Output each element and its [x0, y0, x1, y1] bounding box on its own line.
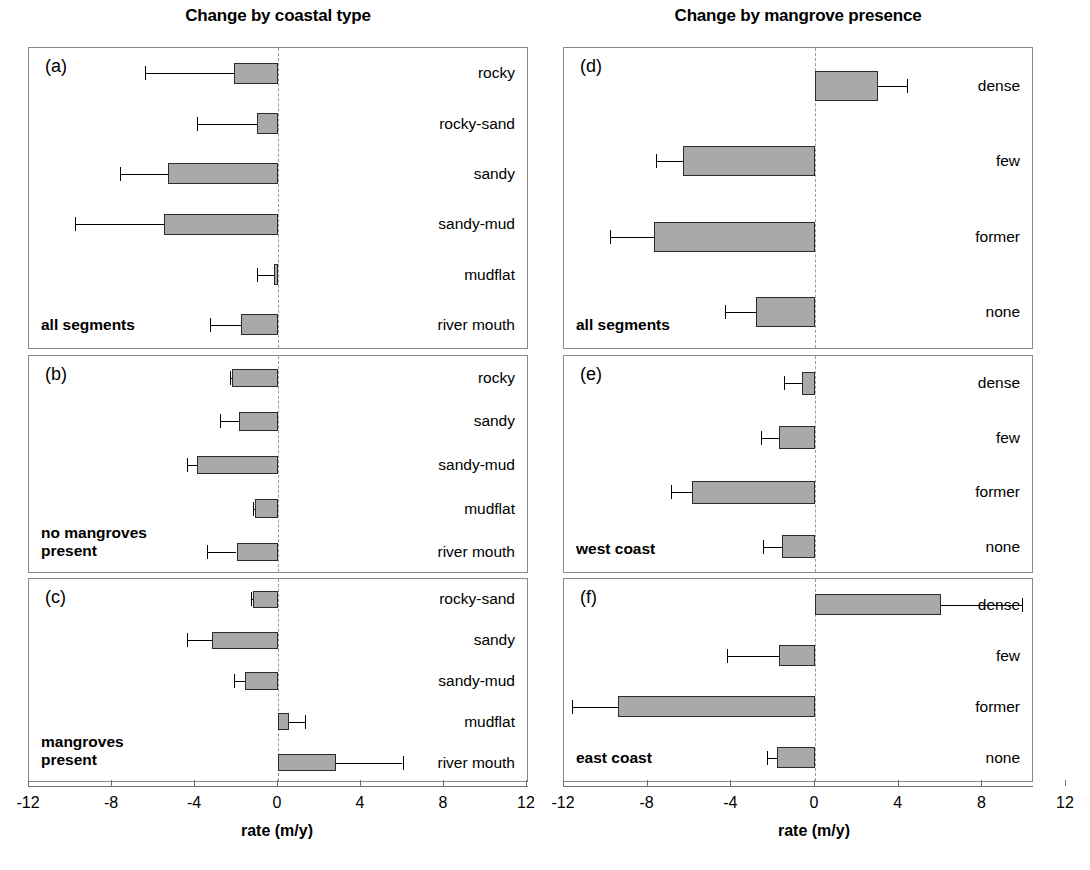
error-bar-cap [75, 217, 76, 231]
x-axis-tick-label: 4 [356, 794, 365, 812]
bar [756, 297, 815, 327]
category-label: few [996, 152, 1020, 170]
x-axis-tick-label: 0 [810, 794, 819, 812]
bar [197, 456, 278, 474]
error-bar-cap [907, 79, 908, 93]
x-axis-tick-label: 12 [1056, 794, 1074, 812]
bar [234, 63, 278, 84]
panel-group-note: no mangroves present [41, 524, 147, 560]
category-label: sandy [474, 631, 515, 649]
bar [164, 214, 278, 235]
panel-group-note: west coast [576, 540, 655, 558]
panel-group-note: all segments [576, 316, 670, 334]
error-bar-cap [784, 376, 785, 390]
bar [237, 543, 279, 561]
error-bar-cap [572, 700, 573, 714]
error-bar-cap [197, 117, 198, 131]
error-bar-cap [251, 592, 252, 606]
category-label: sandy-mud [438, 215, 515, 233]
x-axis-tick [814, 780, 815, 786]
x-axis-tick [28, 780, 29, 786]
error-bar-cap [610, 230, 611, 244]
bar [815, 71, 878, 101]
zero-line [815, 356, 816, 572]
error-bar-line [763, 547, 782, 548]
category-label: dense [978, 77, 1020, 95]
category-label: river mouth [437, 316, 515, 334]
panel-a: (a)all segmentsrockyrocky-sandsandysandy… [28, 47, 528, 349]
x-axis-tick [647, 780, 648, 786]
zero-line [278, 579, 279, 781]
category-label: rocky-sand [439, 115, 515, 133]
panel-key-label: (f) [580, 587, 597, 608]
category-label: former [975, 483, 1020, 501]
error-bar-cap [257, 268, 258, 282]
category-label: sandy [474, 412, 515, 430]
category-label: few [996, 429, 1020, 447]
category-label: rocky-sand [439, 590, 515, 608]
error-bar-cap [727, 649, 728, 663]
bar [802, 372, 815, 395]
bar [278, 754, 336, 771]
x-axis-tick [526, 780, 527, 786]
error-bar-cap [210, 318, 211, 332]
bar [815, 594, 941, 615]
error-bar-cap [656, 154, 657, 168]
error-bar-line [336, 763, 402, 764]
panel-f: (f)east coastdensefewformernone [563, 578, 1033, 782]
category-label: former [975, 228, 1020, 246]
error-bar-line [289, 722, 305, 723]
error-bar-cap [207, 545, 208, 559]
zero-line [278, 48, 279, 348]
x-axis-tick [981, 780, 982, 786]
category-label: dense [978, 374, 1020, 392]
x-axis-tick [360, 780, 361, 786]
bar [779, 426, 815, 449]
x-axis-tick [277, 780, 278, 786]
error-bar-cap [253, 502, 254, 516]
bar [777, 747, 815, 768]
error-bar-line [120, 174, 168, 175]
x-axis-tick-label: 4 [893, 794, 902, 812]
panel-c: (c)mangroves presentrocky-sandsandysandy… [28, 578, 528, 782]
x-axis-tick [194, 780, 195, 786]
error-bar-line [187, 640, 212, 641]
panel-key-label: (b) [45, 364, 67, 385]
category-label: sandy [474, 165, 515, 183]
error-bar-cap [725, 305, 726, 319]
bar [257, 113, 278, 134]
error-bar-line [187, 465, 197, 466]
error-bar-cap [234, 674, 235, 688]
bar [274, 264, 278, 285]
panel-group-note: mangroves present [41, 733, 124, 769]
panel-group-note: east coast [576, 749, 652, 767]
figure-root: Change by coastal typeChange by mangrove… [0, 0, 1090, 870]
error-bar-cap [187, 633, 188, 647]
error-bar-line [207, 552, 236, 553]
x-axis-tick-label: -12 [16, 794, 39, 812]
error-bar-line [610, 237, 654, 238]
error-bar-cap [761, 431, 762, 445]
x-axis-tick-label: -12 [551, 794, 574, 812]
x-axis-tick [443, 780, 444, 786]
x-axis-tick [898, 780, 899, 786]
category-label: river mouth [437, 754, 515, 772]
error-bar-line [725, 312, 756, 313]
zero-line [278, 356, 279, 572]
error-bar-line [220, 421, 239, 422]
x-axis-tick [1065, 780, 1066, 786]
error-bar-line [210, 325, 241, 326]
category-label: former [975, 698, 1020, 716]
bar [239, 412, 278, 430]
error-bar-line [784, 383, 803, 384]
category-label: rocky [478, 369, 515, 387]
x-axis-title: rate (m/y) [241, 822, 313, 840]
error-bar-cap [187, 458, 188, 472]
bar [245, 672, 278, 689]
error-bar-line [727, 656, 779, 657]
category-label: none [986, 538, 1020, 556]
x-axis-tick-label: -8 [104, 794, 118, 812]
category-label: none [986, 303, 1020, 321]
error-bar-line [656, 161, 683, 162]
panel-e: (e)west coastdensefewformernone [563, 355, 1033, 573]
